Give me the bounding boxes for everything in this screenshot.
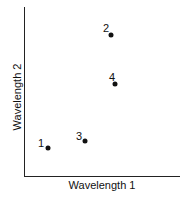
data-point-3: [83, 139, 88, 144]
x-axis: [24, 176, 180, 177]
x-axis-label: Wavelength 1: [24, 179, 180, 191]
point-label-1: 1: [38, 138, 44, 149]
data-point-1: [46, 146, 51, 151]
point-label-4: 4: [109, 72, 115, 83]
point-label-3: 3: [76, 131, 82, 142]
data-point-2: [109, 33, 114, 38]
point-label-2: 2: [103, 23, 109, 34]
y-axis: [24, 7, 25, 177]
y-axis-label: Wavelength 2: [11, 64, 23, 131]
